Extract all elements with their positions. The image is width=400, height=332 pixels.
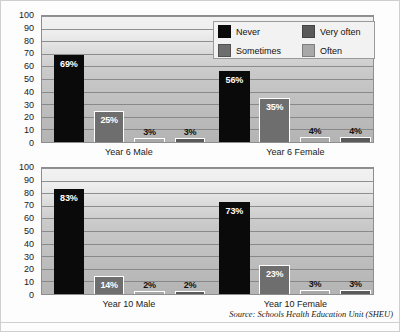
bar-value-label: 35% [260, 103, 288, 112]
legend-swatch-often-icon [302, 44, 315, 57]
bar-sometimes: 23% [259, 265, 289, 294]
bar-sometimes: 35% [259, 98, 289, 142]
y-tick-label: 50 [24, 227, 34, 236]
y-tick-label: 80 [24, 188, 34, 197]
legend-label-sometimes: Sometimes [236, 46, 281, 56]
legend-swatch-sometimes-icon [218, 44, 231, 57]
bar-value-label: 3% [135, 128, 163, 137]
bar-sometimes: 14% [94, 276, 124, 294]
y-tick-label: 90 [24, 175, 34, 184]
y-tick-label: 0 [29, 291, 34, 300]
chart-legend: Never Very often Sometimes Often [213, 21, 375, 59]
y-tick-label: 30 [24, 252, 34, 261]
bar-often: 4% [340, 137, 370, 142]
bars-bottom: 83%14%2%2%73%23%3%3% [42, 168, 373, 294]
legend-label-often: Often [320, 46, 342, 56]
bar-value-label: 23% [260, 270, 288, 279]
y-tick-label: 20 [24, 113, 34, 122]
x-axis-group-label: Year 10 Male [103, 299, 156, 309]
y-tick-label: 0 [29, 139, 34, 148]
legend-item-very-often: Very often [302, 25, 380, 38]
plot-area-bottom: 83%14%2%2%73%23%3%3% [41, 167, 374, 295]
bar-value-label: 4% [301, 127, 329, 136]
bar-value-label: 3% [341, 280, 369, 289]
y-tick-label: 70 [24, 49, 34, 58]
legend-swatch-never-icon [218, 25, 231, 38]
bar-veryoften: 4% [300, 137, 330, 142]
bar-value-label: 25% [95, 116, 123, 125]
chart-year10: 1009080706050403020100 83%14%2%2%73%23%3… [1, 161, 400, 311]
y-tick-label: 60 [24, 214, 34, 223]
bar-often: 3% [175, 138, 205, 142]
legend-item-often: Often [302, 44, 380, 57]
legend-label-never: Never [236, 27, 260, 37]
x-axis-group-label: Year 10 Female [264, 299, 327, 309]
y-tick-label: 10 [24, 278, 34, 287]
x-axis-group-label: Year 6 Male [105, 147, 153, 157]
x-axis-group-label: Year 6 Female [266, 147, 324, 157]
bar-value-label: 73% [220, 207, 248, 216]
chart-year6: 1009080706050403020100 69%25%3%3%56%35%4… [1, 7, 400, 159]
y-tick-label: 40 [24, 87, 34, 96]
y-tick-label: 60 [24, 62, 34, 71]
bar-value-label: 14% [95, 281, 123, 290]
y-tick-label: 80 [24, 36, 34, 45]
y-axis-top: 1009080706050403020100 [1, 15, 37, 143]
footer-divider [1, 322, 399, 323]
bar-never: 83% [54, 189, 84, 294]
bar-veryoften: 2% [134, 291, 164, 294]
bar-veryoften: 3% [300, 290, 330, 294]
bar-never: 56% [219, 71, 249, 142]
bar-sometimes: 25% [94, 111, 124, 143]
bar-often: 3% [340, 290, 370, 294]
y-tick-label: 70 [24, 201, 34, 210]
source-caption: Source: Schools Health Education Unit (S… [229, 309, 393, 319]
bar-value-label: 69% [55, 60, 83, 69]
y-axis-bottom: 1009080706050403020100 [1, 167, 37, 295]
legend-item-never: Never [218, 25, 302, 38]
bar-often: 2% [175, 291, 205, 294]
bar-value-label: 56% [220, 76, 248, 85]
y-tick-label: 100 [19, 11, 34, 20]
y-tick-label: 100 [19, 163, 34, 172]
bar-value-label: 3% [176, 128, 204, 137]
bar-never: 69% [54, 55, 84, 142]
bar-value-label: 2% [135, 281, 163, 290]
chart-page: 1009080706050403020100 69%25%3%3%56%35%4… [0, 0, 400, 332]
bar-never: 73% [219, 202, 249, 294]
y-tick-label: 40 [24, 239, 34, 248]
bar-veryoften: 3% [134, 138, 164, 142]
bar-value-label: 4% [341, 127, 369, 136]
legend-label-very-often: Very often [320, 27, 361, 37]
bar-value-label: 2% [176, 281, 204, 290]
legend-item-sometimes: Sometimes [218, 44, 302, 57]
y-tick-label: 90 [24, 23, 34, 32]
bar-value-label: 3% [301, 280, 329, 289]
legend-swatch-very-often-icon [302, 25, 315, 38]
bar-value-label: 83% [55, 194, 83, 203]
y-tick-label: 30 [24, 100, 34, 109]
y-tick-label: 20 [24, 265, 34, 274]
y-tick-label: 50 [24, 75, 34, 84]
y-tick-label: 10 [24, 126, 34, 135]
